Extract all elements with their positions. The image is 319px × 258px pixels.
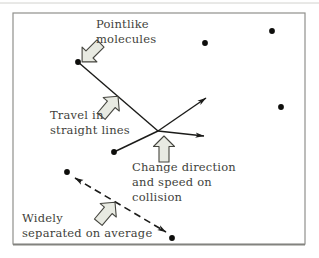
molecule-dot	[75, 59, 81, 65]
label-pointlike-molecules: Pointlike molecules	[96, 17, 156, 47]
molecule-dot	[64, 169, 70, 175]
kinetic-theory-gas-diagram: Pointlike molecules Travel in straight l…	[0, 0, 319, 258]
post-collision-arrow	[158, 131, 204, 136]
molecule-dot	[269, 28, 275, 34]
label-change-direction: Change direction and speed on collision	[132, 160, 236, 205]
post-collision-arrow	[158, 98, 206, 131]
label-widely-separated: Widely separated on average	[22, 211, 152, 241]
molecule-dot	[169, 235, 175, 241]
callout-block-arrow	[154, 136, 175, 162]
molecule-dot	[111, 149, 117, 155]
molecule-dot	[202, 40, 208, 46]
molecule-dot	[278, 104, 284, 110]
label-travel-straight-lines: Travel in straight lines	[50, 108, 130, 138]
